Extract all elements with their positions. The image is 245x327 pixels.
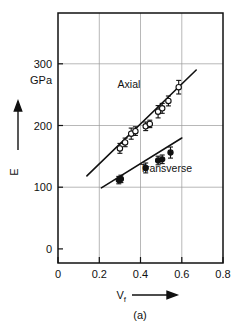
- data-point-axial: [147, 120, 152, 127]
- ytick-label-100: 100: [34, 181, 52, 193]
- figure-panel: 300 200 100 0 GPa 0 0.2 0.4 0.6 0.8 E Vf: [0, 0, 245, 327]
- ytick-label-200: 200: [34, 120, 52, 132]
- figure-caption: (a): [133, 309, 146, 321]
- series-label-axial: Axial: [118, 78, 141, 90]
- ytick-label-0: 0: [46, 243, 52, 255]
- chart-canvas: 300 200 100 0 GPa 0 0.2 0.4 0.6 0.8 E Vf: [0, 0, 245, 327]
- xtick-label-0.6: 0.6: [174, 268, 189, 280]
- series-label-transverse: Transverse: [140, 162, 192, 174]
- y-axis-title: E: [8, 168, 20, 175]
- xtick-label-0: 0: [55, 268, 61, 280]
- xtick-label-0.2: 0.2: [92, 268, 107, 280]
- ytick-label-300: 300: [34, 58, 52, 70]
- xtick-label-0.4: 0.4: [133, 268, 148, 280]
- y-unit-label: GPa: [30, 74, 53, 86]
- figure-background: [0, 0, 245, 327]
- xtick-label-0.8: 0.8: [215, 268, 230, 280]
